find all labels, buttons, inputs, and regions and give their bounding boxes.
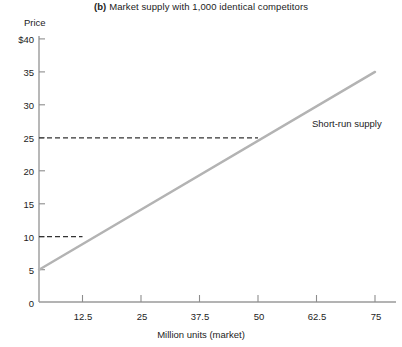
y-axis-ticks	[39, 39, 45, 270]
x-axis-ticks	[83, 295, 376, 302]
supply-chart-figure: (b) Market supply with 1,000 identical c…	[0, 0, 402, 347]
plot-area	[0, 0, 402, 347]
axes-group	[39, 36, 396, 302]
short-run-supply-line	[39, 72, 375, 270]
reference-lines-group	[39, 138, 258, 237]
